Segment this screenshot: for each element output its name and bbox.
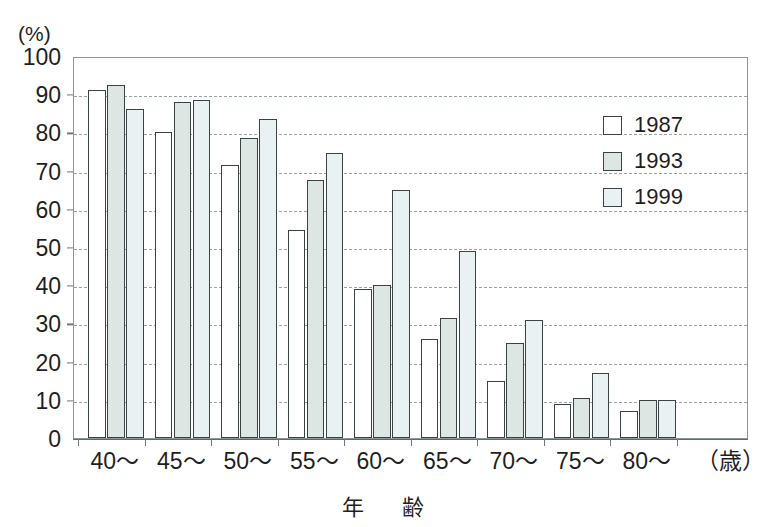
- legend-item: 1987: [603, 110, 723, 140]
- bar-1993-80〜: [639, 400, 657, 438]
- x-axis-tick-mark: [477, 439, 478, 446]
- bar-1999-65〜: [459, 251, 477, 438]
- bar-1999-80〜: [658, 400, 676, 438]
- bar-group: [354, 58, 410, 438]
- y-axis-tick-label: 50: [35, 237, 61, 260]
- bar-1987-50〜: [221, 165, 239, 438]
- bar-1987-80〜: [620, 411, 638, 438]
- bar-1987-70〜: [487, 381, 505, 438]
- bar-group: [487, 58, 543, 438]
- bar-1993-55〜: [307, 180, 325, 438]
- y-axis-tick-label: 60: [35, 198, 61, 221]
- x-axis-tick-label: 55〜: [290, 450, 339, 473]
- bar-1999-50〜: [259, 119, 277, 438]
- bar-chart: (%) 0102030405060708090100 40〜45〜50〜55〜6…: [0, 0, 766, 527]
- x-axis-tick-label: 60〜: [356, 450, 405, 473]
- bar-1999-40〜: [126, 109, 144, 438]
- bar-1999-60〜: [392, 190, 410, 438]
- bar-group: [88, 58, 144, 438]
- bar-group: [288, 58, 344, 438]
- legend-swatch-1987: [603, 116, 622, 135]
- bar-1993-50〜: [240, 138, 258, 438]
- legend-label-1999: 1999: [634, 186, 683, 208]
- bar-1999-75〜: [592, 373, 610, 438]
- bar-1987-60〜: [354, 289, 372, 438]
- y-axis-tick-label: 40: [35, 275, 61, 298]
- bar-group: [554, 58, 610, 438]
- x-axis-tick-mark: [78, 439, 79, 446]
- bar-1993-65〜: [440, 318, 458, 438]
- legend-item: 1999: [603, 182, 723, 212]
- bar-1987-75〜: [554, 404, 572, 438]
- legend-label-1993: 1993: [634, 150, 683, 172]
- y-axis-tick-label: 70: [35, 160, 61, 183]
- x-axis-tick-label: 70〜: [489, 450, 538, 473]
- y-axis: 0102030405060708090100: [0, 57, 73, 439]
- x-axis-tick-label: 65〜: [423, 450, 472, 473]
- y-axis-tick-label: 10: [35, 389, 61, 412]
- bar-1999-45〜: [193, 100, 211, 438]
- legend: 1987 1993 1999: [603, 110, 723, 218]
- bar-1987-45〜: [155, 132, 173, 438]
- x-axis-tick-mark: [145, 439, 146, 446]
- legend-item: 1993: [603, 146, 723, 176]
- x-axis-tick-mark: [677, 439, 678, 446]
- bar-group: [155, 58, 211, 438]
- bar-1993-45〜: [174, 102, 192, 438]
- x-axis-tick-mark: [544, 439, 545, 446]
- y-axis-unit-label: (%): [18, 22, 51, 46]
- x-axis-tick-label: 40〜: [90, 450, 139, 473]
- x-axis-tick-mark: [610, 439, 611, 446]
- x-axis-tick-label: 50〜: [223, 450, 272, 473]
- legend-label-1987: 1987: [634, 114, 683, 136]
- x-axis-tick-label: 75〜: [556, 450, 605, 473]
- y-axis-tick-label: 0: [48, 428, 61, 451]
- y-axis-tick-label: 20: [35, 351, 61, 374]
- bar-group: [421, 58, 477, 438]
- y-axis-tick-label: 80: [35, 122, 61, 145]
- legend-swatch-1993: [603, 152, 622, 171]
- bar-1999-55〜: [326, 153, 344, 438]
- bar-1987-40〜: [88, 90, 106, 438]
- x-axis-tick-label: 45〜: [157, 450, 206, 473]
- bar-1993-60〜: [373, 285, 391, 438]
- bar-1987-55〜: [288, 230, 306, 438]
- bar-1993-75〜: [573, 398, 591, 438]
- x-axis-unit-label: （歳）: [696, 450, 765, 473]
- x-axis-title: 年 齢: [0, 489, 766, 521]
- x-axis-tick-mark: [344, 439, 345, 446]
- bar-1987-65〜: [421, 339, 439, 438]
- bar-1993-70〜: [506, 343, 524, 439]
- x-axis-tick-label: 80〜: [622, 450, 671, 473]
- bar-1993-40〜: [107, 85, 125, 438]
- x-axis-tick-mark: [278, 439, 279, 446]
- y-axis-tick-label: 100: [23, 46, 61, 69]
- y-axis-tick-label: 30: [35, 313, 61, 336]
- bar-1999-70〜: [525, 320, 543, 438]
- bar-group: [221, 58, 277, 438]
- x-axis-tick-mark: [211, 439, 212, 446]
- y-axis-tick-label: 90: [35, 84, 61, 107]
- x-axis-tick-mark: [411, 439, 412, 446]
- legend-swatch-1999: [603, 188, 622, 207]
